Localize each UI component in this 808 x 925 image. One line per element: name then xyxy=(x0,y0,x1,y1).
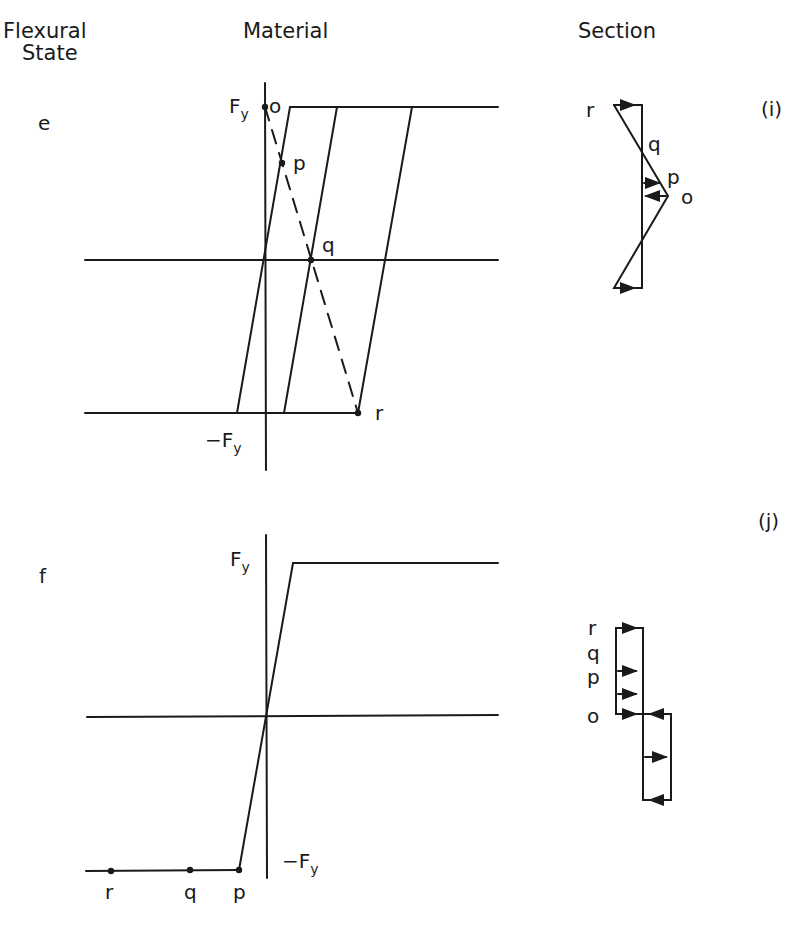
panel-tag-i: (i) xyxy=(761,99,782,119)
point-label-q: q xyxy=(322,235,335,255)
neg-fy-text: −F xyxy=(205,428,233,452)
point-r xyxy=(355,410,361,416)
fy-label-e: Fy xyxy=(229,96,249,116)
fy-text: F xyxy=(229,94,241,118)
point-label-q: q xyxy=(184,882,197,902)
neg-fy-label-e: −Fy xyxy=(205,430,242,450)
fy-subscript: y xyxy=(241,106,249,122)
section-label-p: p xyxy=(587,667,600,687)
section-diagram-j xyxy=(616,628,671,800)
material-diagram-e xyxy=(85,83,498,470)
header-material: Material xyxy=(243,21,328,42)
neg-fy-text: −F xyxy=(282,849,310,873)
point-label-r: r xyxy=(375,403,383,423)
neg-fy-subscript: y xyxy=(233,440,241,456)
fy-subscript: y xyxy=(242,559,250,575)
state-label-e: e xyxy=(38,113,50,133)
strain-axis xyxy=(87,715,498,717)
neg-fy-subscript: y xyxy=(310,861,318,877)
fy-text: F xyxy=(230,547,242,571)
point-p xyxy=(236,867,242,873)
material-diagram-f xyxy=(86,535,498,878)
panel-tag-j: (j) xyxy=(758,511,779,531)
point-q xyxy=(187,867,193,873)
section-label-p: p xyxy=(667,167,680,187)
point-label-p: p xyxy=(233,882,246,902)
point-q xyxy=(308,257,314,263)
stress-axis xyxy=(265,83,266,470)
section-label-o: o xyxy=(681,187,693,207)
section-label-o: o xyxy=(587,706,599,726)
point-p xyxy=(279,160,285,166)
diagram-canvas xyxy=(0,0,808,925)
header-flexural-state-line2: State xyxy=(22,43,78,64)
section-label-q: q xyxy=(587,643,600,663)
section-label-r: r xyxy=(586,100,594,120)
point-label-o: o xyxy=(269,96,281,116)
point-o xyxy=(262,104,268,110)
state-label-f: f xyxy=(39,566,46,586)
section-label-q: q xyxy=(648,134,661,154)
point-r xyxy=(108,868,114,874)
header-flexural-state-line1: Flexural xyxy=(3,21,87,42)
fy-label-f: Fy xyxy=(230,549,250,569)
point-label-p: p xyxy=(293,153,306,173)
neg-fy-label-f: −Fy xyxy=(282,851,319,871)
section-label-r: r xyxy=(588,618,596,638)
point-label-r: r xyxy=(105,882,113,902)
header-section: Section xyxy=(578,21,656,42)
